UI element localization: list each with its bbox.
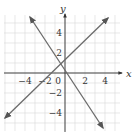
x-tick-label: 2 — [82, 76, 88, 86]
y-tick-label: 4 — [56, 28, 62, 38]
coordinate-plane: x y −4−202442−2−4 — [0, 0, 136, 136]
x-tick-label: 4 — [102, 76, 108, 86]
x-tick-label: 0 — [55, 76, 61, 86]
y-tick-label: −4 — [49, 108, 63, 118]
x-axis-label: x — [126, 68, 132, 79]
y-tick-label: 2 — [56, 48, 62, 58]
y-tick-label: −2 — [49, 88, 62, 98]
y-axis-label: y — [59, 3, 66, 14]
x-tick-label: −4 — [18, 76, 32, 86]
